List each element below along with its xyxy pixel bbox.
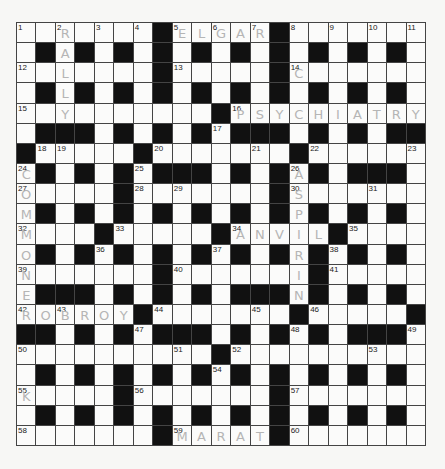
grid-cell[interactable]: L (56, 83, 74, 102)
grid-cell[interactable] (251, 365, 269, 384)
grid-cell[interactable] (329, 83, 347, 102)
grid-cell[interactable] (251, 184, 269, 203)
grid-cell[interactable]: C (290, 104, 308, 123)
grid-cell[interactable]: 8 (290, 23, 308, 42)
grid-cell[interactable] (231, 305, 249, 324)
grid-cell[interactable]: A (192, 426, 210, 445)
grid-cell[interactable] (407, 43, 425, 62)
grid-cell[interactable] (368, 63, 386, 82)
grid-cell[interactable] (36, 426, 54, 445)
grid-cell[interactable] (95, 124, 113, 143)
grid-cell[interactable]: 1 (17, 23, 35, 42)
grid-cell[interactable]: 2R (56, 23, 74, 42)
grid-cell[interactable] (212, 325, 230, 344)
grid-cell[interactable] (95, 426, 113, 445)
grid-cell[interactable] (95, 365, 113, 384)
grid-cell[interactable]: 37 (212, 245, 230, 264)
grid-cell[interactable] (329, 365, 347, 384)
grid-cell[interactable]: 39N (17, 265, 35, 284)
grid-cell[interactable]: 48 (290, 325, 308, 344)
grid-cell[interactable] (17, 43, 35, 62)
grid-cell[interactable] (114, 144, 132, 163)
grid-cell[interactable] (387, 224, 405, 243)
grid-cell[interactable]: 5E (173, 23, 191, 42)
grid-cell[interactable] (290, 365, 308, 384)
grid-cell[interactable] (75, 23, 93, 42)
grid-cell[interactable] (251, 245, 269, 264)
grid-cell[interactable]: 3 (95, 23, 113, 42)
grid-cell[interactable]: A (56, 43, 74, 62)
grid-cell[interactable]: 28 (134, 184, 152, 203)
grid-cell[interactable] (56, 224, 74, 243)
grid-cell[interactable] (368, 124, 386, 143)
grid-cell[interactable] (17, 365, 35, 384)
grid-cell[interactable] (329, 184, 347, 203)
grid-cell[interactable] (368, 365, 386, 384)
grid-cell[interactable] (251, 63, 269, 82)
grid-cell[interactable]: 25 (134, 164, 152, 183)
grid-cell[interactable] (348, 144, 366, 163)
grid-cell[interactable] (368, 426, 386, 445)
grid-cell[interactable]: 49 (407, 325, 425, 344)
grid-cell[interactable] (134, 204, 152, 223)
grid-cell[interactable] (251, 164, 269, 183)
grid-cell[interactable]: 22 (309, 144, 327, 163)
grid-cell[interactable]: 34A (231, 224, 249, 243)
grid-cell[interactable] (95, 104, 113, 123)
grid-cell[interactable] (134, 365, 152, 384)
grid-cell[interactable]: 42R (17, 305, 35, 324)
grid-cell[interactable] (368, 43, 386, 62)
grid-cell[interactable]: S (251, 104, 269, 123)
grid-cell[interactable]: 13 (173, 63, 191, 82)
grid-cell[interactable]: 18 (36, 144, 54, 163)
grid-cell[interactable] (231, 265, 249, 284)
grid-cell[interactable] (114, 345, 132, 364)
grid-cell[interactable]: 46 (309, 305, 327, 324)
grid-cell[interactable]: T (368, 104, 386, 123)
grid-cell[interactable] (387, 426, 405, 445)
grid-cell[interactable] (173, 285, 191, 304)
grid-cell[interactable]: O (95, 305, 113, 324)
grid-cell[interactable]: 27O (17, 184, 35, 203)
grid-cell[interactable] (36, 104, 54, 123)
grid-cell[interactable] (348, 23, 366, 42)
grid-cell[interactable]: 45 (251, 305, 269, 324)
grid-cell[interactable] (329, 285, 347, 304)
grid-cell[interactable] (95, 285, 113, 304)
grid-cell[interactable]: 19 (56, 144, 74, 163)
grid-cell[interactable] (251, 83, 269, 102)
grid-cell[interactable] (270, 305, 288, 324)
grid-cell[interactable] (36, 63, 54, 82)
grid-cell[interactable] (270, 144, 288, 163)
grid-cell[interactable] (153, 224, 171, 243)
grid-cell[interactable] (407, 204, 425, 223)
grid-cell[interactable] (309, 386, 327, 405)
grid-cell[interactable] (153, 104, 171, 123)
grid-cell[interactable] (212, 305, 230, 324)
grid-cell[interactable]: 47 (134, 325, 152, 344)
grid-cell[interactable] (95, 83, 113, 102)
grid-cell[interactable] (192, 224, 210, 243)
grid-cell[interactable] (192, 104, 210, 123)
grid-cell[interactable]: 17 (212, 124, 230, 143)
grid-cell[interactable]: 41 (329, 265, 347, 284)
grid-cell[interactable] (407, 365, 425, 384)
grid-cell[interactable]: 52 (231, 345, 249, 364)
grid-cell[interactable] (134, 406, 152, 425)
grid-cell[interactable] (212, 265, 230, 284)
grid-cell[interactable] (251, 325, 269, 344)
grid-cell[interactable]: 54 (212, 365, 230, 384)
grid-cell[interactable]: 24C (17, 164, 35, 183)
grid-cell[interactable] (173, 83, 191, 102)
grid-cell[interactable]: A (231, 23, 249, 42)
grid-cell[interactable]: R (75, 305, 93, 324)
grid-cell[interactable] (56, 386, 74, 405)
grid-cell[interactable] (95, 184, 113, 203)
grid-cell[interactable] (36, 184, 54, 203)
grid-cell[interactable] (290, 124, 308, 143)
grid-cell[interactable] (368, 224, 386, 243)
grid-cell[interactable] (368, 144, 386, 163)
grid-cell[interactable] (407, 406, 425, 425)
grid-cell[interactable]: 26A (290, 164, 308, 183)
grid-cell[interactable] (192, 63, 210, 82)
